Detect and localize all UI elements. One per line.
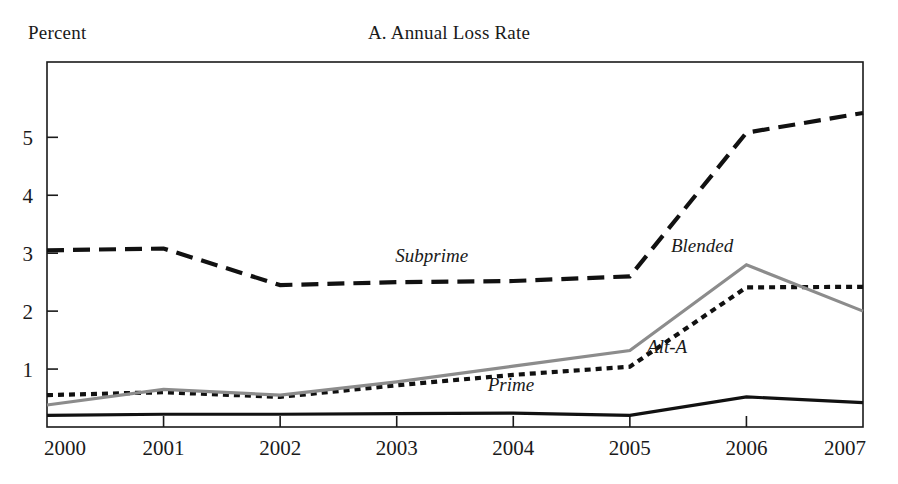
x-tick-label: 2000 xyxy=(44,436,86,460)
y-tick-label: 5 xyxy=(23,126,34,150)
x-tick-label: 2002 xyxy=(259,436,301,460)
x-axis-ticks xyxy=(164,416,747,427)
plot-area: 12345 20002001200220032004200520062007 S… xyxy=(0,0,898,484)
line-chart: 12345 20002001200220032004200520062007 S… xyxy=(0,0,898,484)
x-tick-label: 2007 xyxy=(824,436,866,460)
x-tick-label: 2006 xyxy=(725,436,767,460)
y-tick-label: 4 xyxy=(23,184,34,208)
y-axis-tick-labels: 12345 xyxy=(23,126,34,382)
x-tick-label: 2004 xyxy=(492,436,535,460)
figure-panel-a: Percent A. Annual Loss Rate 12345 200020… xyxy=(0,0,898,484)
x-tick-label: 2001 xyxy=(143,436,185,460)
x-tick-label: 2003 xyxy=(376,436,418,460)
series-label-prime: Prime xyxy=(487,374,534,395)
series-line-blended xyxy=(47,265,863,405)
series-line-alt-a xyxy=(47,287,863,397)
y-tick-label: 3 xyxy=(23,242,34,266)
x-axis-tick-labels: 20002001200220032004200520062007 xyxy=(44,436,866,460)
series-label-alt-a: Alt-A xyxy=(645,336,687,357)
y-tick-label: 2 xyxy=(23,300,34,324)
y-axis-ticks xyxy=(47,137,58,369)
series-line-prime xyxy=(47,397,863,416)
series-label-subprime: Subprime xyxy=(395,245,468,266)
y-tick-label: 1 xyxy=(23,358,34,382)
series-label-blended: Blended xyxy=(671,235,734,256)
x-tick-label: 2005 xyxy=(609,436,651,460)
